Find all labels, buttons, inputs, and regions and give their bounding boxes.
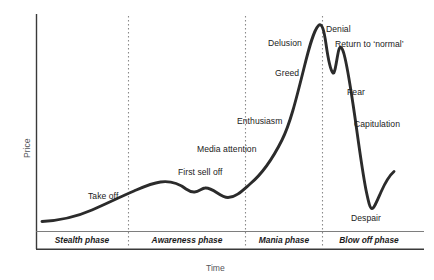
phase-label-mania: Mania phase [246,236,322,244]
phase-label-awareness: Awareness phase [129,236,245,244]
annotation-return-to-normal: Return to ‘normal’ [335,40,404,49]
x-axis-title: Time [206,264,225,273]
annotation-capitulation: Capitulation [354,120,400,129]
annotation-delusion: Delusion [268,39,302,48]
phase-label-stealth: Stealth phase [36,236,128,244]
annotation-take-off: Take off [88,192,118,201]
annotation-denial: Denial [326,25,351,34]
y-axis-title: Price [23,138,32,158]
annotation-enthusiasm: Enthusiasm [237,117,282,126]
annotation-first-sell-off: First sell off [178,168,222,177]
bubble-stages-chart: Price Time Stealth phase Awareness phase… [0,0,434,280]
annotation-despair: Despair [351,214,381,223]
annotation-media-attention: Media attention [197,145,257,154]
annotation-fear: Fear [347,88,365,97]
phase-label-blow-off: Blow off phase [323,236,415,244]
annotation-greed: Greed [275,69,299,78]
